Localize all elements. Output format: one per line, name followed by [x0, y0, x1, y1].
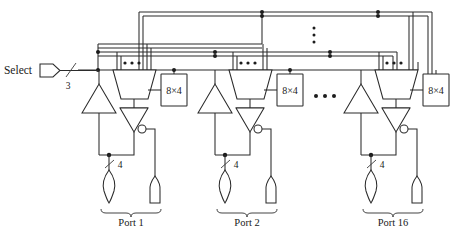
port-1-tristate-output — [146, 129, 155, 185]
port-2-group: 8×4 4 Port 2 — [198, 44, 303, 228]
circuit-schematic: Select 3 — [0, 0, 455, 228]
port-2-brace — [217, 209, 277, 217]
select-input-group: Select 3 — [4, 63, 98, 91]
port-16-group: 8×4 4 Port 16 — [344, 12, 449, 228]
figure-canvas: Select 3 — [0, 0, 455, 228]
port-16-output-pad — [412, 176, 422, 203]
port-1-output-pad — [150, 176, 160, 203]
port-16-label: Port 16 — [378, 217, 409, 228]
port-16-bus-width-label: 4 — [380, 160, 385, 170]
ports-ellipsis — [314, 94, 336, 98]
port-2-feedback-wire — [215, 132, 250, 155]
port-2-mux-dots — [239, 61, 256, 64]
port-2-decoder-label: 8×4 — [282, 85, 298, 96]
select-bus-width-label: 3 — [66, 81, 71, 91]
port-1-mux — [113, 70, 156, 99]
port-2-tristate-output — [262, 129, 271, 185]
port-1-brace — [101, 209, 161, 217]
port-2-bus-width-label: 4 — [234, 160, 239, 170]
port-16-decoder-label: 8×4 — [428, 85, 444, 96]
select-label: Select — [4, 64, 33, 76]
port-16-inverter-bubble — [400, 125, 408, 133]
port-2-inverter-bubble — [254, 125, 262, 133]
port-16-mux-dots — [385, 61, 402, 64]
port-16-tristate-output — [408, 129, 417, 185]
port-1-inverter-bubble — [138, 125, 146, 133]
port-16-feedback-wire — [361, 132, 396, 155]
port-2-label: Port 2 — [234, 217, 259, 228]
port-1-decoder-junction — [172, 68, 176, 72]
port-1-feedback-wire — [99, 132, 134, 155]
port-1-decoder-label: 8×4 — [166, 85, 182, 96]
port-1-input-buffer — [82, 84, 116, 113]
select-input-pad — [40, 64, 60, 77]
port-2-output-pad — [266, 176, 276, 203]
port-2-bidir-pad — [219, 170, 231, 203]
vertical-ellipsis — [313, 27, 316, 44]
port-2-mux — [229, 70, 272, 99]
port-1-bus-width-label: 4 — [118, 160, 123, 170]
port-2-decoder-junction — [288, 68, 292, 72]
port-1-bidir-pad — [103, 170, 115, 203]
port-16-mux — [375, 70, 418, 99]
port-16-bidir-pad — [365, 170, 377, 203]
port-2-input-buffer — [198, 84, 232, 113]
port-16-input-buffer — [344, 84, 378, 113]
port-1-mux-dots — [123, 61, 140, 64]
port-16-brace — [363, 209, 423, 217]
port-1-label: Port 1 — [118, 217, 143, 228]
